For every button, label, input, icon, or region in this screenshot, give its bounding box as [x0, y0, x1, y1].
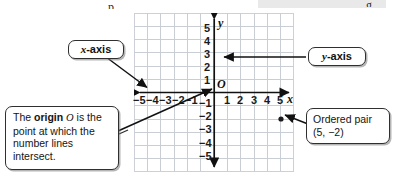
callout-y-axis[interactable]: y-axis	[308, 47, 366, 66]
origin-text-part1: The	[13, 111, 34, 123]
y-tick-label--2: −2	[199, 111, 212, 122]
x-axis-letter: x	[287, 93, 293, 105]
origin-letter: O	[217, 78, 226, 90]
y-tick-label-1: 1	[204, 75, 210, 86]
x-tick-label-5: 5	[277, 95, 283, 106]
y-tick-label-5: 5	[204, 23, 210, 34]
y-tick-label--5: −5	[199, 151, 212, 162]
leader-origin-stub	[119, 130, 128, 134]
x-tick-label-2: 2	[237, 95, 243, 106]
y-tick-label-2: 2	[204, 62, 210, 73]
origin-text-italic: O	[66, 112, 74, 123]
grid-and-axes-svg	[134, 13, 294, 172]
top-cutoff-glyph-right: g	[366, 0, 372, 7]
y-tick-label-3: 3	[204, 49, 210, 60]
data-point-5-neg2	[278, 116, 283, 121]
ordered-pair-line-1: Ordered pair	[313, 113, 384, 126]
y-tick-label--3: −3	[199, 124, 212, 135]
callout-origin[interactable]: The origin O is the point at which the n…	[5, 106, 119, 170]
x-tick-label--5: −5	[133, 95, 146, 106]
x-tick-label-1: 1	[224, 95, 230, 106]
callout-x-axis[interactable]: x-axis	[68, 40, 124, 59]
callout-y-axis-rest: -axis	[327, 50, 352, 62]
ordered-pair-line-2: (5, −2)	[313, 126, 384, 139]
x-tick-label-3: 3	[251, 95, 257, 106]
callout-y-axis-label: y-axis	[322, 51, 352, 62]
x-tick-label--1: −1	[185, 95, 198, 106]
x-tick-label--3: −3	[159, 95, 172, 106]
y-axis-letter: y	[218, 17, 223, 29]
callout-x-axis-rest: -axis	[86, 43, 111, 55]
y-tick-label-4: 4	[204, 36, 210, 47]
coordinate-plane-figure: p g	[0, 0, 396, 180]
top-cutoff-glyph-left: p	[108, 0, 114, 9]
y-tick-label--4: −4	[199, 138, 212, 149]
callout-x-axis-label: x-axis	[81, 44, 112, 55]
origin-text-bold: origin	[34, 111, 63, 123]
top-cutoff-text-left: p	[108, 0, 130, 9]
y-tick-label--1: −1	[199, 98, 212, 109]
callout-ordered-pair[interactable]: Ordered pair (5, −2)	[306, 108, 390, 144]
graph-plot-area: −5 −4 −3 −2 −1 1 2 3 4 5 5 4 3 2 1 −1 −2…	[134, 13, 294, 172]
origin-description: The origin O is the point at which the n…	[13, 111, 113, 162]
x-tick-label-4: 4	[264, 95, 270, 106]
x-tick-label--2: −2	[172, 95, 185, 106]
x-tick-label--4: −4	[146, 95, 159, 106]
